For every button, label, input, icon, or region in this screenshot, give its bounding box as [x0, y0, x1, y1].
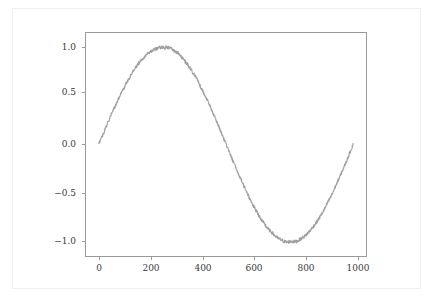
y-tick-label-1.0: 1.0: [52, 43, 76, 52]
x-tick-mark-400: [203, 257, 204, 260]
x-tick-label-200: 200: [142, 264, 159, 273]
x-tick-mark-1000: [358, 257, 359, 260]
plot-area: [85, 32, 367, 257]
y-tick-label-0.0: 0.0: [52, 140, 76, 149]
x-tick-label-600: 600: [245, 264, 262, 273]
x-tick-label-400: 400: [194, 264, 211, 273]
x-tick-mark-600: [254, 257, 255, 260]
x-tick-label-0: 0: [96, 264, 102, 273]
x-tick-label-800: 800: [297, 264, 314, 273]
y-tick-label-neg1.0: −1.0: [48, 237, 76, 246]
x-tick-label-1000: 1000: [347, 264, 370, 273]
line-chart-svg: [86, 33, 366, 256]
x-tick-mark-200: [151, 257, 152, 260]
y-tick-label-0.5: 0.5: [52, 88, 76, 97]
figure-canvas: 1.0 0.5 0.0 −0.5 −1.0 0 200 400 600 800 …: [0, 0, 433, 305]
series-line-noisy-sine: [99, 46, 354, 244]
x-tick-mark-0: [99, 257, 100, 260]
y-tick-label-neg0.5: −0.5: [48, 189, 76, 198]
x-tick-mark-800: [306, 257, 307, 260]
